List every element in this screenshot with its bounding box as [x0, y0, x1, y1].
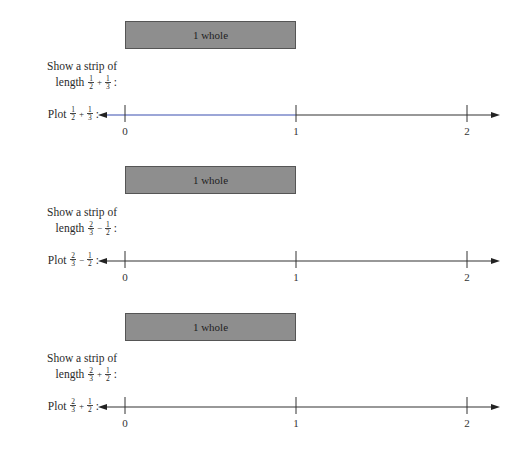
fraction-a: 12 [88, 75, 94, 90]
whole-strip: 1 whole [125, 21, 296, 49]
arrow-right-icon [491, 404, 500, 410]
tick-label: 2 [464, 271, 470, 283]
whole-strip-label: 1 whole [193, 174, 228, 186]
whole-strip-label: 1 whole [193, 321, 228, 333]
tick-label: 0 [122, 417, 128, 429]
tick-label: 1 [293, 271, 299, 283]
tick-label: 1 [293, 125, 299, 137]
fraction-a: 23 [88, 221, 94, 236]
length-word: length [56, 220, 85, 236]
operator: + [97, 74, 102, 90]
operator: + [97, 366, 102, 382]
tick-label: 2 [464, 125, 470, 137]
whole-strip-label: 1 whole [193, 29, 228, 41]
arrow-left-icon [98, 258, 107, 264]
prompt-line-1: Show a strip of [47, 350, 117, 366]
strip-prompt: Show a strip of length 23 − 12 : [47, 204, 117, 236]
arrow-right-icon [491, 258, 500, 264]
tick-label: 0 [122, 271, 128, 283]
fraction-a: 23 [88, 367, 94, 382]
strip-prompt: Show a strip of length 23 + 12 : [47, 350, 117, 382]
whole-strip: 1 whole [125, 313, 296, 341]
arrow-left-icon [98, 112, 107, 118]
fraction-b: 12 [105, 367, 111, 382]
number-line[interactable]: 012 [0, 95, 519, 135]
prompt-line-2: length 23 − 12 : [47, 220, 117, 236]
number-line[interactable]: 012 [0, 387, 519, 427]
prompt-line-2: length 12 + 13 : [47, 74, 117, 90]
fraction-b: 12 [105, 221, 111, 236]
prompt-line-1: Show a strip of [47, 58, 117, 74]
length-word: length [56, 74, 85, 90]
prompt-line-1: Show a strip of [47, 204, 117, 220]
tick-label: 2 [464, 417, 470, 429]
operator: − [97, 220, 102, 236]
number-line[interactable]: 012 [0, 241, 519, 281]
section-2: 1 whole Show a strip of length 23 − 12 :… [0, 146, 519, 286]
whole-strip: 1 whole [125, 166, 296, 194]
tick-label: 1 [293, 417, 299, 429]
tick-label: 0 [122, 125, 128, 137]
length-word: length [56, 366, 85, 382]
section-1: 1 whole Show a strip of length 12 + 13 :… [0, 0, 519, 140]
fraction-b: 13 [105, 75, 111, 90]
prompt-line-2: length 23 + 12 : [47, 366, 117, 382]
arrow-left-icon [98, 404, 107, 410]
section-3: 1 whole Show a strip of length 23 + 12 :… [0, 292, 519, 432]
arrow-right-icon [491, 112, 500, 118]
strip-prompt: Show a strip of length 12 + 13 : [47, 58, 117, 90]
